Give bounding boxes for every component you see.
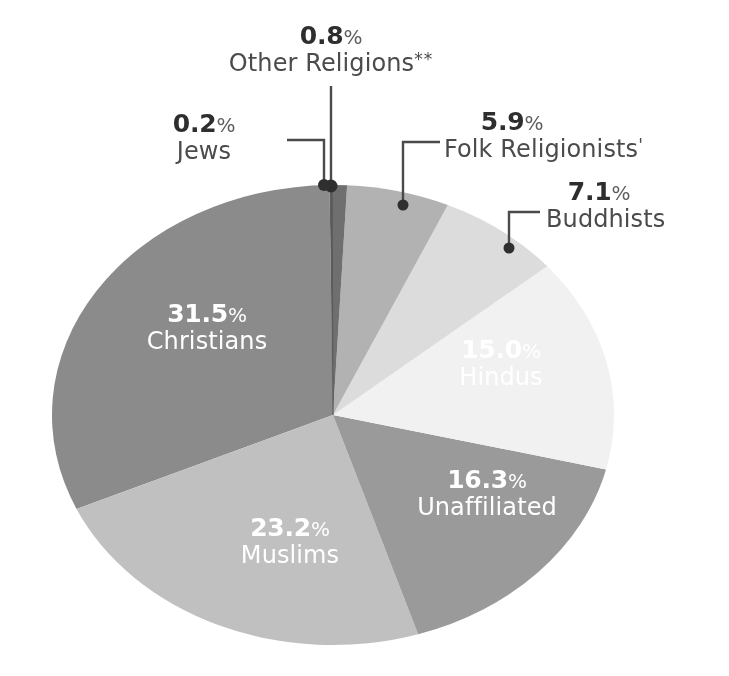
label-buddhists-value: 7.1% <box>524 178 674 206</box>
label-christians-value: 31.5% <box>109 300 305 328</box>
pie-slices <box>52 185 614 645</box>
leader-dot-folk-religionists <box>398 200 409 211</box>
label-hindus: 15.0% Hindus <box>421 336 581 390</box>
leader-dot-jews <box>318 179 330 191</box>
label-jews: 0.2% Jews <box>124 110 284 165</box>
label-christians: 31.5% Christians <box>109 300 305 354</box>
label-jews-value: 0.2% <box>124 110 284 138</box>
leader-line-jews <box>287 140 324 184</box>
label-unaffiliated-name: Unaffiliated <box>378 494 596 520</box>
label-jews-name: Jews <box>124 138 284 165</box>
label-other-religions-value: 0.8% <box>191 22 471 50</box>
label-folk-religionists: 5.9% Folk Religionists' <box>424 108 678 163</box>
label-christians-name: Christians <box>109 328 305 354</box>
pie-chart: 0.8% Other Religions** 0.2% Jews 5.9% Fo… <box>0 0 729 676</box>
label-hindus-name: Hindus <box>421 364 581 390</box>
label-folk-religionists-value: 5.9% <box>424 108 600 136</box>
label-folk-religionists-name: Folk Religionists' <box>424 136 678 163</box>
label-unaffiliated: 16.3% Unaffiliated <box>378 466 596 520</box>
leader-dot-buddhists <box>504 243 515 254</box>
label-other-religions-name: Other Religions** <box>191 50 471 77</box>
label-buddhists-name: Buddhists <box>524 206 724 233</box>
label-buddhists: 7.1% Buddhists <box>524 178 724 233</box>
label-muslims-name: Muslims <box>197 542 383 568</box>
label-other-religions: 0.8% Other Religions** <box>191 22 471 77</box>
label-muslims: 23.2% Muslims <box>197 514 383 568</box>
label-hindus-value: 15.0% <box>421 336 581 364</box>
label-muslims-value: 23.2% <box>197 514 383 542</box>
label-unaffiliated-value: 16.3% <box>378 466 596 494</box>
